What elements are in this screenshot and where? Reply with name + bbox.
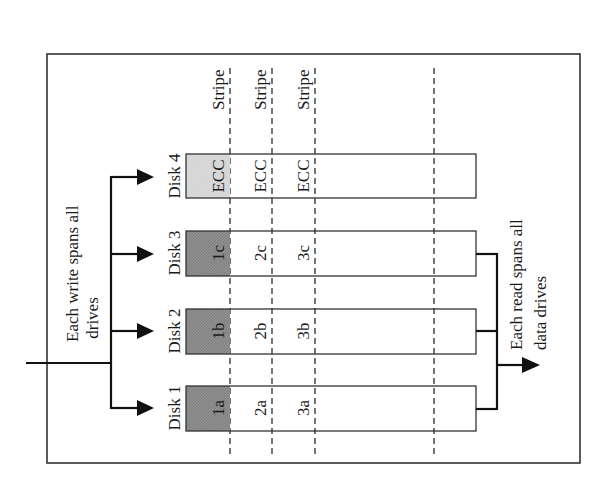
disk-4-label: Disk 4	[165, 153, 184, 198]
stripe-label-3: Stripe	[294, 69, 313, 110]
disk-3: Disk 3 1c 2c 3c	[165, 231, 476, 276]
arrow-right-icon	[137, 169, 154, 185]
disk-4-block-1: ECC	[209, 159, 228, 192]
disk-1-block-3: 3a	[294, 400, 313, 417]
arrow-right-icon	[137, 323, 154, 339]
disk-1-block-2: 2a	[251, 400, 270, 417]
disk-2-block-1: 1b	[209, 323, 228, 340]
disk-2-label: Disk 2	[165, 309, 184, 354]
disk-3-label: Disk 3	[165, 231, 184, 276]
disk-4-block-3: ECC	[294, 159, 313, 192]
write-label-line-1: Each write spans all	[63, 205, 82, 342]
disk-1: Disk 1 1a 2a 3a	[165, 386, 476, 431]
raid-diagram: Stripe Stripe Stripe Disk 4 ECC ECC ECC …	[0, 0, 611, 497]
disk-3-block-2: 2c	[251, 245, 270, 262]
disk-2-block-2: 2b	[251, 323, 270, 340]
disk-2-block-3: 3b	[294, 323, 313, 340]
arrow-right-icon	[137, 400, 154, 416]
stripe-labels: Stripe Stripe Stripe	[209, 69, 313, 110]
raid-diagram-svg: Stripe Stripe Stripe Disk 4 ECC ECC ECC …	[0, 0, 611, 497]
disk-3-block-3: 3c	[294, 245, 313, 262]
disk-4-block-2: ECC	[251, 159, 270, 192]
disk-4: Disk 4 ECC ECC ECC	[165, 153, 476, 198]
arrow-right-icon	[522, 357, 540, 373]
disk-1-block-1: 1a	[209, 400, 228, 417]
read-label-line-1: Each read spans all	[507, 219, 526, 350]
write-bus	[26, 176, 140, 409]
read-label: Each read spans all data drives	[507, 219, 550, 350]
stripe-label-2: Stripe	[251, 69, 270, 110]
stripe-dividers	[230, 68, 434, 457]
disk-3-block-1: 1c	[209, 245, 228, 262]
write-label: Each write spans all drives	[63, 205, 102, 342]
read-label-line-2: data drives	[531, 276, 550, 350]
arrow-right-icon	[137, 246, 154, 262]
disk-2: Disk 2 1b 2b 3b	[165, 309, 476, 354]
stripe-label-1: Stripe	[209, 69, 228, 110]
write-arrowheads	[137, 169, 154, 416]
diagram-frame	[47, 54, 580, 463]
write-label-line-2: drives	[83, 297, 102, 339]
disk-1-label: Disk 1	[165, 386, 184, 431]
